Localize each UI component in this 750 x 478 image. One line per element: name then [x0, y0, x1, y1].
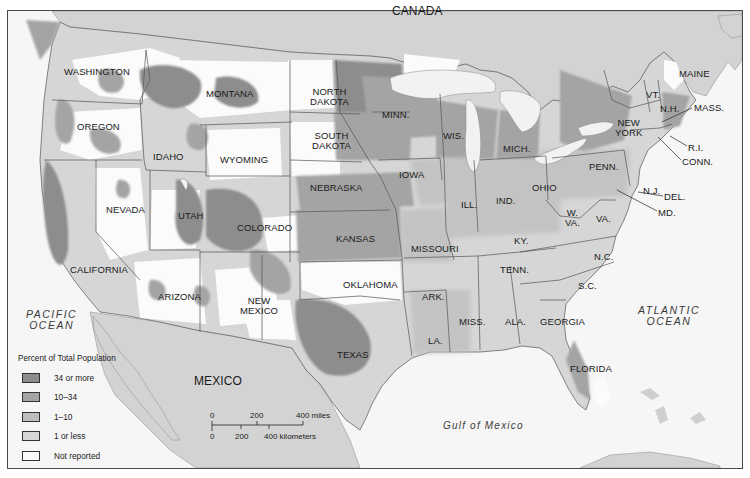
state-label-new-york: NEW YORK: [615, 118, 642, 138]
scale-km-400: 400 kilometers: [264, 432, 316, 441]
state-label-md: MD.: [658, 208, 676, 218]
scale-miles-400: 400 miles: [296, 411, 330, 420]
state-label-ill: ILL.: [461, 200, 477, 210]
scale-bar: 0 200 400 miles 0 200 400 kilometers: [206, 411, 346, 447]
state-label-california: CALIFORNIA: [70, 265, 128, 275]
state-label-conn: CONN.: [682, 157, 713, 167]
state-label-arizona: ARIZONA: [158, 292, 201, 302]
state-label-georgia: GEORGIA: [540, 317, 585, 327]
legend-label: 1 or less: [54, 431, 85, 441]
scale-miles-200: 200: [250, 411, 263, 420]
state-label-north-dakota: NORTH DAKOTA: [310, 87, 349, 107]
state-label-del: DEL.: [664, 192, 686, 202]
state-label-wyoming: WYOMING: [220, 155, 268, 165]
legend-label: 1–10: [54, 412, 72, 422]
legend-swatch: [22, 392, 40, 402]
ocean-label-gulf: Gulf of Mexico: [443, 421, 524, 431]
state-label-ind: IND.: [496, 196, 515, 206]
legend-swatch: [22, 373, 40, 383]
state-label-ala: ALA.: [505, 317, 526, 327]
state-label-maine: MAINE: [679, 69, 710, 79]
ocean-label-atlantic: ATLANTIC OCEAN: [638, 305, 700, 327]
scale-miles-0: 0: [210, 411, 214, 420]
state-label-mass: MASS.: [694, 103, 724, 113]
state-label-miss: MISS.: [459, 317, 485, 327]
legend-swatch: [22, 451, 40, 461]
state-label-n-h: N.H.: [660, 104, 679, 114]
state-label-s-c: S.C.: [578, 281, 597, 291]
state-label-penn: PENN.: [589, 162, 619, 172]
state-label-texas: TEXAS: [337, 350, 369, 360]
state-label-iowa: IOWA: [399, 170, 424, 180]
state-label-oregon: OREGON: [77, 122, 120, 132]
state-label-missouri: MISSOURI: [411, 244, 459, 254]
state-label-ky: KY.: [514, 236, 528, 246]
state-label-montana: MONTANA: [206, 89, 254, 99]
state-label-utah: UTAH: [178, 211, 204, 221]
legend-label: 10–34: [54, 392, 77, 402]
state-label-tenn: TENN.: [500, 265, 529, 275]
legend-label: Not reported: [54, 451, 100, 461]
legend-item-1-10: 1–10: [12, 407, 118, 427]
scale-km-0: 0: [210, 432, 214, 441]
state-label-wis: WIS.: [443, 131, 464, 141]
state-label-minn: MINN.: [382, 110, 409, 120]
country-label-canada: CANADA: [392, 6, 443, 16]
state-label-vt: VT.: [646, 90, 660, 100]
state-label-r-i: R.I.: [688, 143, 703, 153]
state-label-va: VA.: [596, 214, 611, 224]
legend-item-10-34: 10–34: [12, 388, 118, 408]
state-label-south-dakota: SOUTH DAKOTA: [312, 131, 351, 151]
state-label-oklahoma: OKLAHOMA: [343, 280, 398, 290]
state-label-ark: ARK.: [422, 292, 445, 302]
state-label-new-mexico: NEW MEXICO: [240, 296, 278, 316]
legend-item-not-reported: Not reported: [12, 446, 118, 466]
legend-swatch: [22, 412, 40, 422]
legend-item-1-or-less: 1 or less: [12, 427, 118, 447]
legend-label: 34 or more: [54, 373, 94, 383]
state-label-n-j: N.J.: [643, 186, 660, 196]
state-label-washington: WASHINGTON: [64, 67, 130, 77]
ocean-label-pacific: PACIFIC OCEAN: [26, 309, 77, 331]
country-label-mexico: MEXICO: [194, 376, 242, 386]
state-label-ohio: OHIO: [532, 183, 557, 193]
legend-swatch: [22, 431, 40, 441]
state-label-mich: MICH.: [503, 144, 530, 154]
state-label-nebraska: NEBRASKA: [310, 183, 363, 193]
legend: Percent of Total Population 34 or more 1…: [12, 354, 118, 466]
state-label-colorado: COLORADO: [237, 223, 292, 233]
state-label-nevada: NEVADA: [106, 205, 145, 215]
state-label-idaho: IDAHO: [153, 152, 184, 162]
scale-km-200: 200: [235, 432, 248, 441]
state-label-w-va: W. VA.: [565, 208, 580, 228]
state-label-la: LA.: [428, 336, 443, 346]
state-label-n-c: N.C.: [594, 252, 613, 262]
state-label-kansas: KANSAS: [336, 234, 375, 244]
legend-item-34-plus: 34 or more: [12, 368, 118, 388]
state-label-florida: FLORIDA: [570, 364, 612, 374]
legend-title: Percent of Total Population: [18, 354, 118, 363]
